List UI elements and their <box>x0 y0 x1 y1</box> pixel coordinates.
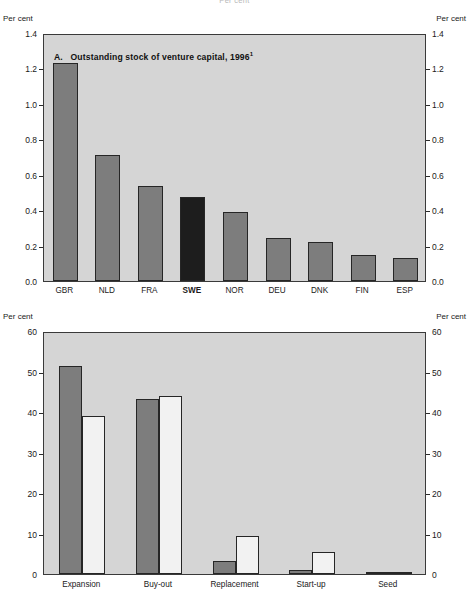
y-tick-label: 40 <box>3 409 37 418</box>
y-tick-label: 10 <box>432 531 466 540</box>
y-tick-mark <box>39 247 43 248</box>
y-tick-label: 0 <box>3 571 37 580</box>
venture-capital-figure: Per cent Per cent Per cent A. Outstandin… <box>0 0 469 594</box>
y-tick-mark <box>39 105 43 106</box>
x-category-label-start-up: Start-up <box>271 581 351 589</box>
clipped-page-header-text: Per cent <box>219 0 249 5</box>
bar-gbr <box>53 63 78 281</box>
panel-a-title-footnote: 1 <box>250 51 254 57</box>
y-tick-label: 0 <box>432 571 466 580</box>
panel-b-unit-left: Per cent <box>3 312 33 321</box>
y-tick-label: 0.4 <box>432 207 466 216</box>
y-tick-mark <box>426 247 430 248</box>
y-tick-label: 30 <box>3 450 37 459</box>
y-tick-mark <box>39 494 43 495</box>
y-tick-label: 60 <box>3 328 37 337</box>
panel-a: Per cent Per cent A. Outstanding stock o… <box>0 14 469 306</box>
y-tick-mark <box>426 373 430 374</box>
y-tick-mark <box>426 69 430 70</box>
panel-b-plot-area <box>43 332 426 575</box>
y-tick-label: 1.4 <box>3 30 37 39</box>
y-tick-label: 0.0 <box>3 278 37 287</box>
y-tick-label: 40 <box>432 409 466 418</box>
x-category-label-esp: ESP <box>375 287 435 295</box>
y-tick-label: 20 <box>3 490 37 499</box>
y-tick-label: 20 <box>432 490 466 499</box>
y-tick-label: 0.8 <box>3 136 37 145</box>
y-tick-mark <box>426 211 430 212</box>
y-tick-mark <box>39 176 43 177</box>
bar-fin <box>351 255 376 281</box>
y-tick-label: 10 <box>3 531 37 540</box>
bar-nor <box>223 212 248 281</box>
y-tick-label: 1.0 <box>3 101 37 110</box>
y-tick-mark <box>426 494 430 495</box>
clipped-page-header: Per cent <box>0 0 469 7</box>
y-tick-label: 0.2 <box>432 243 466 252</box>
bar-start-up-sweden <box>289 570 312 574</box>
x-category-label-expansion: Expansion <box>41 581 121 589</box>
panel-b: Per cent Per cent B. Share of 1996 ventu… <box>0 306 469 594</box>
y-tick-mark <box>426 454 430 455</box>
y-tick-mark <box>39 454 43 455</box>
bar-dnk <box>308 242 333 281</box>
bar-nld <box>95 155 120 282</box>
y-tick-mark <box>39 211 43 212</box>
y-tick-label: 0.0 <box>432 278 466 287</box>
panel-a-plot-area <box>43 34 426 282</box>
y-tick-mark <box>426 105 430 106</box>
x-category-label-seed: Seed <box>348 581 428 589</box>
y-tick-label: 1.4 <box>432 30 466 39</box>
bar-swe <box>180 197 205 281</box>
y-tick-label: 1.2 <box>432 65 466 74</box>
panel-a-unit-left: Per cent <box>3 14 33 23</box>
y-tick-mark <box>39 373 43 374</box>
y-tick-mark <box>426 535 430 536</box>
y-tick-label: 0.8 <box>432 136 466 145</box>
y-tick-label: 1.2 <box>3 65 37 74</box>
y-tick-label: 30 <box>432 450 466 459</box>
y-tick-label: 0.6 <box>432 172 466 181</box>
y-tick-mark <box>39 140 43 141</box>
panel-a-unit-right: Per cent <box>436 14 466 23</box>
panel-a-title-text: Outstanding stock of venture capital, 19… <box>71 52 250 62</box>
y-tick-mark <box>426 413 430 414</box>
bar-fra <box>138 186 163 281</box>
x-category-label-buy-out: Buy-out <box>118 581 198 589</box>
bar-replacement-sweden <box>213 561 236 574</box>
bar-expansion-europe <box>82 416 105 574</box>
y-tick-mark <box>39 413 43 414</box>
bar-buy-out-sweden <box>136 399 159 574</box>
panel-a-title-prefix: A. <box>54 52 63 62</box>
y-tick-label: 0.2 <box>3 243 37 252</box>
panel-a-bars <box>44 35 425 281</box>
bar-esp <box>393 258 418 281</box>
bar-seed-sweden <box>366 572 389 574</box>
panel-b-unit-right: Per cent <box>436 312 466 321</box>
y-tick-mark <box>426 140 430 141</box>
bar-expansion-sweden <box>59 366 82 574</box>
bar-start-up-europe <box>312 552 335 574</box>
y-tick-label: 50 <box>432 369 466 378</box>
x-category-label-replacement: Replacement <box>195 581 275 589</box>
y-tick-mark <box>426 176 430 177</box>
y-tick-label: 0.6 <box>3 172 37 181</box>
y-tick-label: 60 <box>432 328 466 337</box>
panel-b-bars <box>44 333 425 574</box>
bar-deu <box>266 238 291 281</box>
y-tick-mark <box>39 69 43 70</box>
y-tick-label: 1.0 <box>432 101 466 110</box>
y-tick-label: 0.4 <box>3 207 37 216</box>
y-tick-label: 50 <box>3 369 37 378</box>
y-tick-mark <box>39 535 43 536</box>
bar-replacement-europe <box>236 536 259 574</box>
bar-seed-europe <box>389 572 412 574</box>
panel-a-title: A. Outstanding stock of venture capital,… <box>54 51 253 62</box>
bar-buy-out-europe <box>159 396 182 574</box>
